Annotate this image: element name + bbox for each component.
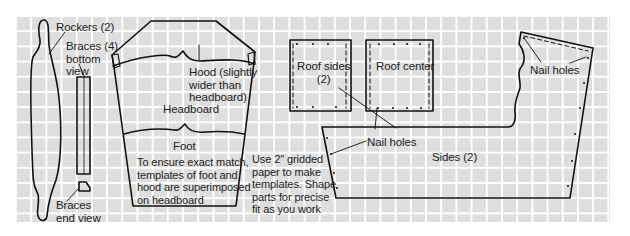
label-match-note: To ensure exact match, templates of foot… xyxy=(137,156,250,206)
label-braces-bottom-view: Braces (4) bottom view xyxy=(66,40,118,78)
roof-center-panel xyxy=(366,40,433,111)
brace-bottom-view xyxy=(77,77,90,174)
label-grid-note: Use 2″ gridded paper to make templates. … xyxy=(252,153,336,216)
hood-curve xyxy=(113,51,255,66)
label-nail-holes-right: Nail holes xyxy=(530,64,580,77)
label-nail-holes-center: Nail holes xyxy=(367,136,417,149)
label-headboard: Headboard xyxy=(163,103,219,116)
label-roof-center: Roof center xyxy=(376,60,434,73)
label-roof-sides: Roof sides (2) xyxy=(297,60,350,85)
label-sides: Sides (2) xyxy=(432,151,477,164)
label-hood: Hood (slightly wider than headboard) xyxy=(189,66,257,104)
label-foot: Foot xyxy=(173,140,196,153)
label-braces-end-view: Braces end view xyxy=(56,199,101,224)
rocker-shape xyxy=(31,20,61,221)
foot-curve xyxy=(124,124,244,134)
sides-outline xyxy=(322,32,593,198)
diagram-canvas: Rockers (2) Braces (4) bottom view Brace… xyxy=(0,0,630,236)
label-rockers: Rockers (2) xyxy=(56,21,114,34)
brace-end-view xyxy=(79,182,90,191)
